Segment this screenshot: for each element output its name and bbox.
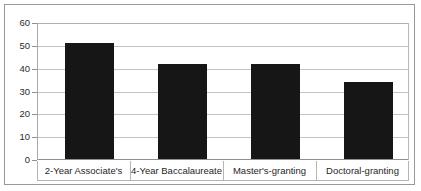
y-tick-label-0: 0	[4, 155, 30, 165]
bar-4-year-baccalaureate	[158, 64, 207, 159]
x-axis-label-band: 2-Year Associate's 4-Year Baccalaureate …	[37, 161, 409, 181]
x-axis-label-2-year-associates: 2-Year Associate's	[37, 164, 130, 178]
x-axis-label-doctoral-granting: Doctoral-granting	[316, 164, 409, 178]
y-tick-label-20: 20	[4, 110, 30, 120]
label-band-underline	[37, 180, 409, 181]
plot-area	[37, 23, 409, 160]
y-tick-label-40: 40	[4, 64, 30, 74]
bar-2-year-associates	[65, 43, 114, 159]
gridline-60	[38, 23, 408, 24]
bar-doctoral-granting	[344, 82, 393, 159]
y-tick-label-30: 30	[4, 87, 30, 97]
y-tick-label-60: 60	[4, 18, 30, 28]
x-axis-label-masters-granting: Master's-granting	[223, 164, 316, 178]
bar-chart: 60 50 40 30 20 10 0	[0, 0, 421, 191]
y-axis-labels: 60 50 40 30 20 10 0	[0, 0, 30, 191]
gridline-0	[38, 159, 408, 160]
x-axis-label-4-year-baccalaureate: 4-Year Baccalaureate	[130, 164, 223, 178]
y-tick-label-50: 50	[4, 41, 30, 51]
y-tick-label-10: 10	[4, 132, 30, 142]
bar-masters-granting	[251, 64, 300, 159]
